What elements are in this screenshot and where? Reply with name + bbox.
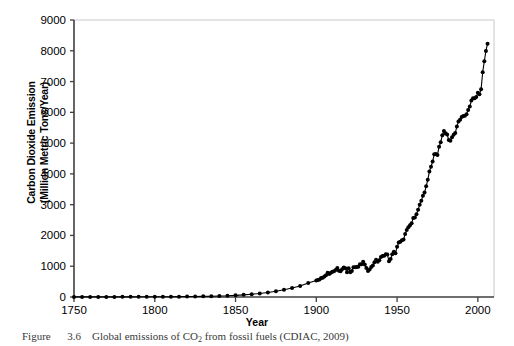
data-point: [250, 292, 254, 296]
data-line: [74, 44, 488, 297]
data-point: [410, 221, 414, 225]
data-point: [80, 295, 84, 299]
data-point: [416, 208, 420, 212]
data-point: [298, 284, 302, 288]
x-tick-label: 1800: [142, 304, 168, 316]
x-tick-label: 1850: [223, 304, 249, 316]
caption-text-after-sub: from fossil fuels (CDIAC, 2009): [202, 330, 349, 342]
data-point: [209, 294, 213, 298]
data-point: [258, 291, 262, 295]
data-point: [72, 295, 76, 299]
line-chart-svg: 0100020003000400050006000700080009000175…: [0, 0, 514, 316]
data-point: [455, 125, 459, 129]
y-tick-label: 3000: [40, 199, 66, 211]
data-point: [402, 238, 406, 242]
data-point: [477, 92, 481, 96]
data-point: [88, 295, 92, 299]
data-point: [282, 288, 286, 292]
caption-number: 3.6: [67, 330, 81, 342]
data-point: [389, 257, 393, 261]
data-point: [137, 295, 141, 299]
data-point: [234, 293, 238, 297]
data-point: [468, 105, 472, 109]
x-tick-label: 1750: [61, 304, 87, 316]
data-point: [403, 232, 407, 236]
data-point: [129, 295, 133, 299]
plot-frame: [74, 20, 494, 297]
data-point: [423, 191, 427, 195]
data-point: [112, 295, 116, 299]
data-point: [439, 140, 443, 144]
axis-ticks: [70, 20, 478, 302]
data-point: [193, 294, 197, 298]
data-point: [429, 165, 433, 169]
data-point: [465, 112, 469, 116]
data-point: [385, 252, 389, 256]
data-point: [419, 199, 423, 203]
chart-plot-area: 0100020003000400050006000700080009000175…: [0, 0, 514, 316]
data-point: [217, 294, 221, 298]
data-point: [274, 289, 278, 293]
x-tick-label: 2000: [465, 304, 491, 316]
data-point: [453, 131, 457, 135]
data-point: [306, 281, 310, 285]
y-tick-label: 4000: [40, 168, 66, 180]
y-tick-label: 9000: [40, 14, 66, 26]
data-point: [486, 42, 490, 46]
data-point: [395, 245, 399, 249]
data-point: [482, 59, 486, 63]
caption-text-before-sub: Global emissions of CO: [92, 330, 198, 342]
data-point: [445, 132, 449, 136]
data-point: [427, 170, 431, 174]
caption-prefix: Figure: [22, 330, 51, 342]
axis-tick-labels: 0100020003000400050006000700080009000175…: [40, 14, 490, 316]
data-point: [484, 49, 488, 53]
figure-caption: Figure 3.6 Global emissions of CO2 from …: [22, 330, 514, 346]
data-point: [104, 295, 108, 299]
data-point: [185, 295, 189, 299]
data-point: [431, 160, 435, 164]
data-point: [363, 263, 367, 267]
data-point: [393, 251, 397, 255]
x-tick-label: 1900: [304, 304, 330, 316]
x-tick-label: 1950: [384, 304, 410, 316]
data-point: [290, 286, 294, 290]
data-point: [161, 295, 165, 299]
y-tick-label: 5000: [40, 137, 66, 149]
y-tick-label: 6000: [40, 106, 66, 118]
data-point: [145, 295, 149, 299]
y-tick-label: 8000: [40, 45, 66, 57]
data-point: [266, 290, 270, 294]
data-point: [347, 266, 351, 270]
data-series-layer: [72, 42, 490, 299]
data-point: [169, 295, 173, 299]
data-point: [177, 295, 181, 299]
data-point: [437, 145, 441, 149]
data-point: [242, 293, 246, 297]
data-point: [474, 95, 478, 99]
y-tick-label: 7000: [40, 76, 66, 88]
y-tick-label: 1000: [40, 260, 66, 272]
data-point: [96, 295, 100, 299]
data-point: [426, 178, 430, 182]
data-point: [448, 139, 452, 143]
data-point: [201, 294, 205, 298]
data-point: [424, 184, 428, 188]
data-point: [414, 212, 418, 216]
data-point: [479, 87, 483, 91]
y-tick-label: 0: [60, 291, 66, 303]
data-point: [153, 295, 157, 299]
y-tick-label: 2000: [40, 229, 66, 241]
data-point: [120, 295, 124, 299]
data-point: [435, 153, 439, 157]
data-point: [350, 269, 354, 273]
data-point: [481, 70, 485, 74]
data-point: [225, 294, 229, 298]
data-point: [418, 203, 422, 207]
x-axis-title: Year: [0, 316, 514, 328]
